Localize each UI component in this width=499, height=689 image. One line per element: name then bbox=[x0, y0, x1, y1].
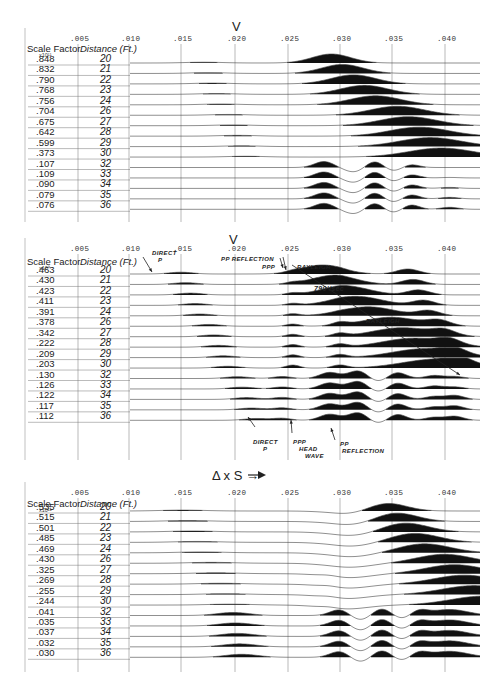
x-tick-label: .005 bbox=[70, 35, 89, 43]
trace-line bbox=[130, 75, 480, 84]
distance-value: 27 bbox=[100, 327, 111, 338]
distance-value: 21 bbox=[100, 63, 111, 74]
distance-value: 22 bbox=[100, 74, 111, 85]
trace-line bbox=[130, 96, 480, 105]
scale-factor-value: .130 bbox=[36, 369, 55, 380]
distance-value: 27 bbox=[100, 116, 111, 127]
scale-factor-value: .642 bbox=[36, 126, 55, 137]
scale-factor-value: .430 bbox=[36, 274, 55, 285]
scale-factor-value: .035 bbox=[36, 616, 55, 627]
scale-factor-value: .430 bbox=[36, 553, 55, 564]
trace-fill bbox=[173, 523, 459, 532]
scale-factor-value: .079 bbox=[36, 189, 55, 200]
trace-fill bbox=[190, 54, 377, 63]
x-tick-label: .035 bbox=[384, 489, 403, 497]
distance-value: 35 bbox=[100, 189, 111, 200]
scale-factor-value: .704 bbox=[36, 105, 55, 116]
trace-line bbox=[130, 413, 480, 423]
trace-fill bbox=[178, 296, 447, 305]
trace-fill bbox=[207, 96, 434, 105]
trace-fill bbox=[203, 85, 420, 94]
scale-factor-value: .411 bbox=[36, 295, 54, 306]
trace-line bbox=[130, 172, 480, 182]
trace-line bbox=[130, 381, 480, 391]
distance-value: 26 bbox=[100, 105, 111, 116]
x-tick-label: .020 bbox=[227, 35, 246, 43]
annotation-velocity: 790'/sec bbox=[314, 285, 344, 292]
trace-fill bbox=[201, 575, 480, 584]
scale-factor-value: .848 bbox=[36, 53, 55, 64]
scale-factor-value: .244 bbox=[36, 595, 55, 606]
scale-factor-value: .126 bbox=[36, 379, 55, 390]
trace-line bbox=[130, 513, 480, 524]
distance-value: 28 bbox=[100, 337, 111, 348]
x-tick-label: .010 bbox=[121, 245, 140, 253]
x-tick-label: .025 bbox=[280, 489, 299, 497]
annotation-pp-refl-bottom-2: REFLECTION bbox=[342, 448, 384, 454]
trace-line bbox=[130, 503, 480, 513]
trace-fill bbox=[232, 148, 480, 157]
trace-fill bbox=[224, 127, 480, 136]
trace-fill bbox=[182, 544, 480, 553]
x-tick-label: .020 bbox=[227, 489, 246, 497]
distance-value: 33 bbox=[100, 379, 111, 390]
panel-title: Δ x S → bbox=[212, 468, 259, 483]
distance-value: 36 bbox=[100, 647, 111, 658]
trace-line bbox=[130, 203, 480, 213]
trace-fill bbox=[220, 371, 469, 379]
annotation-rayleigh-2: RAYLEIGH bbox=[366, 318, 400, 324]
scale-factor-value: .109 bbox=[36, 168, 55, 179]
scale-factor-value: .832 bbox=[36, 63, 55, 74]
trace-fill bbox=[304, 172, 427, 178]
distance-value: 34 bbox=[100, 178, 111, 189]
annotation-ppp-head: PPP bbox=[293, 439, 306, 445]
x-tick-label: .035 bbox=[384, 245, 403, 253]
trace-fill bbox=[199, 75, 406, 84]
distance-value: 33 bbox=[100, 616, 111, 627]
distance-value: 24 bbox=[100, 306, 111, 317]
x-tick-label: .035 bbox=[384, 35, 403, 43]
scale-factor-value: .423 bbox=[36, 285, 55, 296]
x-tick-label: .040 bbox=[437, 35, 456, 43]
distance-value: 34 bbox=[100, 389, 111, 400]
trace-line bbox=[130, 371, 480, 381]
distance-value: 32 bbox=[100, 158, 111, 169]
panel-1 bbox=[25, 28, 480, 222]
scale-factor-value: .599 bbox=[36, 137, 55, 148]
x-tick-label: .030 bbox=[332, 245, 351, 253]
annotation-direct-p-sub: P bbox=[158, 257, 162, 263]
seismogram-traces bbox=[0, 0, 499, 689]
distance-value: 23 bbox=[100, 532, 111, 543]
scale-factor-value: .463 bbox=[36, 264, 55, 275]
distance-value: 35 bbox=[100, 637, 111, 648]
distance-value: 22 bbox=[100, 522, 111, 533]
distance-value: 26 bbox=[100, 553, 111, 564]
annotation-pp-refl-bottom: PP bbox=[340, 441, 349, 447]
x-tick-label: .015 bbox=[173, 489, 192, 497]
scale-factor-value: .037 bbox=[36, 626, 55, 637]
annotation-ppp: PPP bbox=[262, 264, 275, 270]
scale-factor-value: .032 bbox=[36, 637, 55, 648]
trace-fill bbox=[201, 337, 480, 347]
distance-value: 30 bbox=[100, 147, 111, 158]
scale-factor-value: .209 bbox=[36, 348, 55, 359]
distance-value: 24 bbox=[100, 95, 111, 106]
panel-3 bbox=[25, 482, 480, 672]
annotation-ppp-head-3: WAVE bbox=[305, 453, 324, 459]
distance-value: 30 bbox=[100, 358, 111, 369]
distance-value: 23 bbox=[100, 295, 111, 306]
trace-fill bbox=[173, 285, 442, 294]
annotation-direct-p-bottom-sub: P bbox=[263, 446, 267, 452]
scale-factor-value: .090 bbox=[36, 178, 55, 189]
scale-factor-value: .325 bbox=[36, 564, 55, 575]
distance-value: 29 bbox=[100, 348, 111, 359]
distance-value: 21 bbox=[100, 274, 111, 285]
x-tick-label: .030 bbox=[332, 489, 351, 497]
distance-value: 32 bbox=[100, 369, 111, 380]
scale-factor-value: .756 bbox=[36, 95, 55, 106]
annotation-pp-reflection: PP REFLECTION bbox=[221, 256, 274, 262]
panel-title: V bbox=[232, 19, 241, 34]
x-tick-label: .030 bbox=[332, 35, 351, 43]
annotation-direct-p-bottom: DIRECT bbox=[253, 439, 278, 445]
trace-fill bbox=[194, 64, 391, 73]
